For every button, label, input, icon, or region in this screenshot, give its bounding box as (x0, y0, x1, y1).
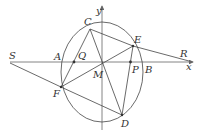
label-f: F (52, 88, 61, 99)
label-r: R (179, 48, 188, 59)
point-e (132, 45, 134, 47)
point-p (129, 61, 132, 64)
point-f (60, 86, 62, 88)
point-q (73, 61, 76, 64)
label-d: D (120, 118, 129, 129)
line-sf (10, 63, 61, 87)
point-d (121, 114, 123, 116)
label-q: Q (78, 50, 86, 61)
geometry-diagram: y x C E R S A Q M P B F D (0, 0, 200, 140)
label-a: A (53, 51, 61, 62)
label-b: B (144, 64, 152, 75)
line-ed (122, 46, 133, 115)
label-x-axis: x (186, 61, 192, 72)
label-y-axis: y (95, 5, 102, 16)
label-s: S (9, 50, 16, 61)
label-m: M (92, 69, 104, 80)
label-e: E (133, 34, 142, 45)
label-c: C (84, 16, 92, 27)
label-p: P (131, 64, 139, 75)
line-fe (61, 46, 133, 87)
